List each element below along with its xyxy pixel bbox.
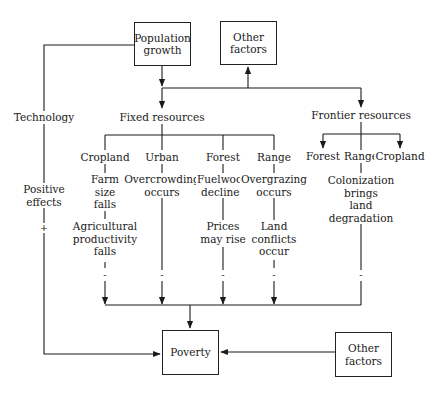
minus-sign-cropland: -	[102, 270, 107, 280]
frontier-forest-label: Forest	[305, 150, 341, 163]
fixed-cropland-label: Cropland	[79, 151, 130, 164]
minus-sign-range: -	[271, 270, 276, 280]
technology-label: Technology	[13, 111, 75, 124]
frontier-resources-label: Frontier resources	[310, 109, 412, 122]
fixed-resources-label: Fixed resources	[118, 111, 205, 124]
other-factors-top-box: Other factors	[220, 21, 277, 65]
positive-effects-label: Positive effects	[22, 183, 65, 208]
prices-may-rise-label: Prices may rise	[199, 220, 246, 245]
overgrazing-occurs-label: Overgrazing occurs	[240, 173, 308, 198]
minus-sign-forest: -	[220, 270, 225, 280]
land-conflicts-occur-label: Land conflicts occur	[251, 220, 298, 258]
colonization-label: Colonization brings land degradation	[319, 174, 403, 224]
population-growth-box: Population growth	[134, 22, 191, 66]
other-factors-bottom-box: Other factors	[335, 332, 392, 377]
overcrowding-occurs-label: Overcrowding occurs	[123, 173, 201, 198]
fixed-range-label: Range	[256, 151, 292, 164]
farm-size-falls-label: Farm size falls	[90, 173, 120, 211]
frontier-cropland-label: Cropland	[374, 150, 425, 163]
fixed-forest-label: Forest	[205, 151, 241, 164]
poverty-box: Poverty	[162, 330, 219, 375]
minus-sign-frontier: -	[358, 270, 363, 280]
plus-sign: +	[39, 223, 49, 233]
fixed-urban-label: Urban	[144, 151, 180, 164]
minus-sign-urban: -	[159, 270, 164, 280]
agricultural-productivity-falls-label: Agricultural productivity falls	[72, 220, 138, 258]
